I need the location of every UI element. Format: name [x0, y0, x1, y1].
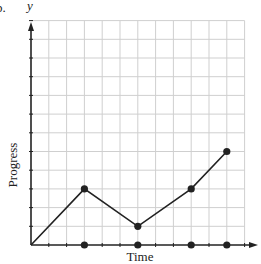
x-axis-marker [223, 241, 230, 248]
data-point [81, 185, 88, 192]
x-axis-label: Time [127, 249, 154, 264]
y-axis-label: Progress [5, 143, 20, 188]
axes [28, 21, 258, 248]
data-point [223, 148, 230, 155]
line-chart: b. y Progress Time [0, 0, 261, 264]
x-axis-marker [188, 241, 195, 248]
series-line [31, 152, 227, 246]
y-axis-arrow-icon [28, 22, 34, 31]
data-series [31, 148, 230, 249]
data-point [188, 185, 195, 192]
x-axis-arrow-icon [249, 242, 258, 248]
x-axis-marker [81, 241, 88, 248]
y-axis-letter: y [25, 0, 33, 13]
data-point [134, 223, 141, 230]
figure-label: b. [0, 0, 6, 15]
x-axis-marker [134, 241, 141, 248]
